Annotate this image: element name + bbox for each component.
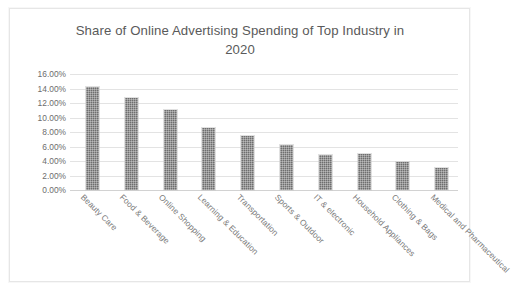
- x-axis-tick-label: Beauty Care: [79, 192, 119, 232]
- bar: [280, 145, 293, 190]
- x-axis: Beauty CareFood & BeverageOnline Shoppin…: [70, 192, 470, 287]
- y-axis-tick-label: 10.00%: [20, 113, 66, 123]
- bar: [202, 128, 215, 190]
- bar: [319, 155, 332, 190]
- gridline-0.00: [70, 190, 458, 191]
- y-axis-tick-label: 12.00%: [20, 98, 66, 108]
- chart-title: Share of Online Advertising Spending of …: [38, 21, 442, 59]
- y-axis-tick-label: 16.00%: [20, 69, 66, 79]
- bar: [396, 162, 409, 190]
- bar: [86, 87, 99, 190]
- x-axis-tick-label: Medical and Pharmaceutical: [429, 192, 511, 275]
- plot-area: [70, 74, 458, 190]
- y-axis-tick-label: 0.00%: [20, 185, 66, 195]
- chart-title-line-1: Share of Online Advertising Spending of …: [76, 23, 405, 38]
- chart-container: Share of Online Advertising Spending of …: [9, 8, 470, 282]
- y-axis-tick-label: 8.00%: [20, 127, 66, 137]
- bar-series: [70, 74, 458, 190]
- chart-title-line-2: 2020: [225, 42, 255, 57]
- y-axis: 16.00%14.00%12.00%10.00%8.00%6.00%4.00%2…: [18, 74, 66, 190]
- bar: [358, 154, 371, 190]
- bar: [435, 168, 448, 190]
- y-axis-tick-label: 4.00%: [20, 156, 66, 166]
- y-axis-tick-label: 6.00%: [20, 142, 66, 152]
- bar: [164, 110, 177, 190]
- y-axis-tick-label: 2.00%: [20, 171, 66, 181]
- y-axis-tick-label: 14.00%: [20, 84, 66, 94]
- bar: [125, 98, 138, 190]
- bar: [241, 136, 254, 190]
